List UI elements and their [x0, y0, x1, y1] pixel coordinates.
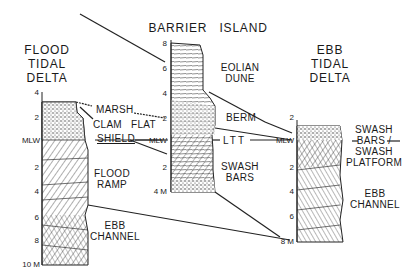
- depth-tick: 8 M: [275, 237, 294, 246]
- facies-swash-bars-platform: SWASH BARS / SWASH PLATFORM: [344, 124, 404, 168]
- facies-swash-bars: SWASH BARS: [218, 161, 262, 183]
- depth-tick-mlw: MLW: [270, 136, 294, 145]
- facies-flood-ramp: FLOOD RAMP: [92, 168, 132, 190]
- depth-tick: 2: [24, 113, 39, 122]
- facies-ebb-channel: EBB CHANNEL: [90, 220, 140, 242]
- depth-tick: 8: [24, 236, 39, 245]
- facies-clam-flat: CLAM FLAT: [93, 119, 156, 130]
- depth-tick: 8: [155, 39, 167, 48]
- depth-tick: 6: [155, 64, 167, 73]
- facies-ebb-channel: EBB CHANNEL: [348, 188, 402, 210]
- barrier-island-title: BARRIER ISLAND: [148, 21, 268, 35]
- flood-tidal-delta-title: FLOOD TIDAL DELTA: [20, 43, 74, 85]
- depth-tick: 4: [24, 187, 39, 196]
- depth-tick: 4: [155, 89, 167, 98]
- facies-shield: SHIELD: [97, 133, 135, 144]
- facies-eolian-dune: EOLIAN DUNE: [218, 62, 262, 84]
- depth-tick: 2: [155, 114, 167, 123]
- depth-tick: 4: [282, 187, 294, 196]
- ebb-tidal-delta-column: [297, 120, 343, 242]
- depth-tick-mlw: MLW: [14, 136, 40, 145]
- depth-tick: 4 M: [148, 187, 167, 196]
- flood-tidal-delta-column: [42, 92, 88, 265]
- depth-tick: 6: [24, 213, 39, 222]
- facies-marsh: MARSH: [96, 104, 134, 115]
- depth-tick: 10 M: [14, 260, 40, 269]
- depth-tick: 4: [24, 88, 39, 97]
- depth-tick: 6: [282, 212, 294, 221]
- facies-berm: BERM: [226, 112, 256, 123]
- ebb-tidal-delta-title: EBB TIDAL DELTA: [303, 43, 357, 85]
- depth-tick: 2: [155, 163, 167, 172]
- depth-tick: 2: [24, 163, 39, 172]
- barrier-island-column: [171, 40, 215, 192]
- depth-tick: 2: [282, 113, 294, 122]
- depth-tick: 2: [282, 163, 294, 172]
- facies-ltt: LTT: [223, 135, 246, 146]
- depth-tick-mlw: MLW: [143, 136, 167, 145]
